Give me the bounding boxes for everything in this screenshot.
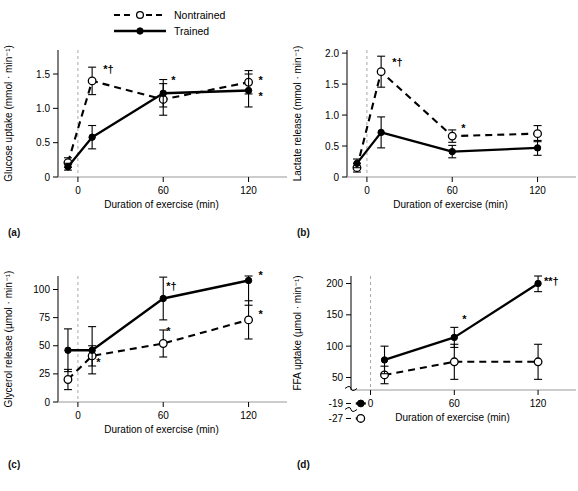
- significance-annotation: *: [166, 325, 171, 337]
- data-point-filled-circle: [65, 164, 71, 170]
- y-tick-label-basal: -19: [329, 398, 344, 409]
- data-point-filled-circle: [378, 129, 384, 135]
- figure-root: NontrainedTrained 00.51.01.5060120Durati…: [0, 0, 578, 491]
- data-point-filled-circle: [381, 357, 387, 363]
- data-point-group: [377, 117, 385, 148]
- data-point-open-circle: [377, 68, 385, 76]
- chart-d-svg: 50100150200-19-27060120Duration of exerc…: [289, 262, 578, 452]
- data-point-filled-circle: [354, 160, 360, 166]
- series-line-nontrained: [68, 81, 249, 163]
- y-tick-label: 0: [44, 397, 50, 408]
- data-point-group: [64, 163, 72, 170]
- x-tick-label: 120: [240, 410, 257, 421]
- data-point-open-circle: [64, 376, 72, 384]
- x-tick-label: 60: [158, 185, 170, 196]
- y-tick-label: 50: [332, 372, 344, 383]
- legend-label: Nontrained: [174, 9, 226, 21]
- data-point-group: [381, 346, 389, 374]
- significance-annotation: *: [259, 308, 264, 320]
- x-axis-title: Duration of exercise (min): [104, 199, 218, 210]
- legend-marker-open-circle: [137, 12, 144, 19]
- series-line-nontrained: [385, 362, 539, 375]
- data-point-open-circle: [245, 316, 253, 324]
- y-tick-label: 1.5: [36, 69, 50, 80]
- x-tick-label: 0: [364, 185, 370, 196]
- panel-b: 00.51.01.52.0060120Duration of exercise …: [289, 38, 578, 223]
- data-point-filled-circle: [357, 400, 364, 407]
- data-point-filled-circle: [160, 90, 166, 96]
- data-point-filled-circle: [451, 334, 457, 340]
- x-tick-label: 60: [447, 185, 459, 196]
- data-point-group: [448, 130, 456, 142]
- x-tick-label: 120: [530, 398, 547, 409]
- y-tick-label: 1.5: [325, 79, 339, 90]
- basal-points-group: [356, 400, 366, 422]
- data-point-group: [64, 369, 72, 389]
- x-tick-label: 60: [158, 410, 170, 421]
- x-tick-label: 60: [449, 398, 461, 409]
- data-point-open-circle: [159, 340, 167, 348]
- y-tick-label: 50: [39, 340, 51, 351]
- x-axis-title: Duration of exercise (min): [393, 199, 507, 210]
- y-tick-label: 0.5: [36, 137, 50, 148]
- y-axis-title: Glycerol release (µmol · min⁻¹): [3, 271, 14, 408]
- panel-c: 0255075100060120Duration of exercise (mi…: [0, 262, 289, 452]
- y-axis-title: Glucose uptake (mmol · min⁻¹): [3, 45, 14, 182]
- y-tick-label: 150: [326, 309, 343, 320]
- x-axis-title: Duration of exercise (min): [104, 424, 218, 435]
- y-axis-title: Lactate release (mmol · min⁻¹): [292, 46, 303, 182]
- significance-annotation: *: [259, 74, 264, 86]
- data-point-group: [64, 329, 72, 372]
- series-line-nontrained: [357, 72, 538, 168]
- series-line-trained: [68, 91, 249, 167]
- data-point-open-circle: [451, 358, 459, 366]
- series-line-trained: [68, 281, 249, 351]
- significance-annotation: *†: [392, 56, 402, 68]
- y-axis-title: FFA uptake (µmol · min⁻¹): [292, 275, 303, 390]
- significance-annotation: *: [461, 122, 466, 134]
- data-point-group: [450, 344, 458, 379]
- series-line-trained: [385, 284, 539, 360]
- significance-annotation: *: [462, 313, 467, 325]
- panel-a-label: (a): [8, 227, 20, 238]
- panel-d-label: (d): [297, 459, 310, 470]
- x-tick-label: 120: [240, 185, 257, 196]
- y-tick-label: 1.0: [325, 110, 339, 121]
- data-point-group: [88, 327, 96, 374]
- significance-annotation: *: [259, 90, 264, 102]
- panel-c-label: (c): [8, 459, 20, 470]
- data-point-filled-circle: [160, 295, 166, 301]
- y-tick-label: 100: [33, 284, 50, 295]
- data-point-filled-circle: [534, 145, 540, 151]
- chart-a-svg: 00.51.01.5060120Duration of exercise (mi…: [0, 38, 289, 223]
- chart-b-svg: 00.51.01.52.0060120Duration of exercise …: [289, 38, 578, 223]
- panel-d: 50100150200-19-27060120Duration of exerc…: [289, 262, 578, 452]
- x-tick-label: 120: [529, 185, 546, 196]
- significance-annotation: *†: [166, 280, 176, 292]
- data-point-filled-circle: [245, 277, 251, 283]
- data-point-filled-circle: [449, 148, 455, 154]
- legend-entry-nontrained: Nontrained: [114, 9, 226, 21]
- y-tick-label: 0.5: [325, 141, 339, 152]
- data-point-open-circle: [88, 77, 96, 85]
- legend-label: Trained: [174, 25, 209, 37]
- legend-entry-trained: Trained: [114, 25, 209, 37]
- legend-marker-filled-circle: [137, 28, 143, 34]
- x-tick-label: 0: [75, 410, 81, 421]
- data-point-group: [534, 140, 542, 155]
- data-point-open-circle: [534, 130, 542, 138]
- x-axis-title: Duration of exercise (min): [395, 412, 509, 423]
- y-tick-label: 2.0: [325, 48, 339, 59]
- y-tick-label: 200: [326, 278, 343, 289]
- panel-a: 00.51.01.5060120Duration of exercise (mi…: [0, 38, 289, 223]
- axis-break-squiggle: [345, 407, 357, 411]
- y-tick-label: 75: [39, 312, 51, 323]
- data-point-filled-circle: [89, 347, 95, 353]
- data-point-group: [534, 276, 542, 292]
- y-tick-label: 100: [326, 341, 343, 352]
- y-tick-label: 0: [44, 172, 50, 183]
- data-point-group: [534, 126, 542, 142]
- data-point-group: [534, 344, 542, 379]
- data-point-group: [448, 145, 456, 157]
- significance-annotation: *: [259, 269, 264, 281]
